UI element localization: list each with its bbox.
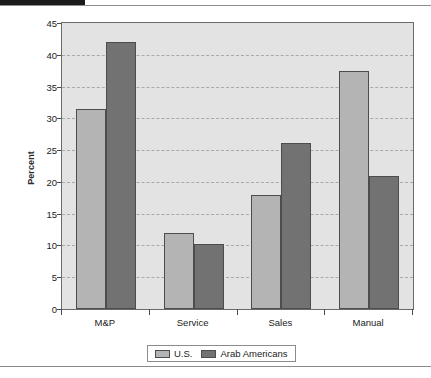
x-category-label: Sales [268, 317, 292, 328]
x-axis-category-labels: M&PServiceSalesManual [61, 317, 412, 333]
x-axis-tick-marks [61, 309, 414, 316]
y-axis-tick-marks [22, 22, 62, 309]
bar [164, 233, 194, 309]
legend-label: U.S. [174, 348, 192, 359]
bar [106, 42, 136, 309]
legend-swatch [155, 350, 170, 358]
x-tick-mark [61, 309, 62, 315]
legend-entry: Arab Americans [201, 348, 287, 359]
bar [251, 195, 281, 309]
x-tick-mark [149, 309, 150, 315]
bar [339, 71, 369, 309]
x-category-label: Service [177, 317, 209, 328]
bar [194, 244, 224, 309]
bar-chart-figure: Percent 051015202530354045 M&PServiceSal… [0, 6, 431, 366]
x-tick-mark [324, 309, 325, 315]
x-category-label: M&P [95, 317, 116, 328]
legend-entry: U.S. [155, 348, 192, 359]
bottom-divider-rule [0, 366, 431, 367]
legend-swatch [201, 350, 216, 358]
bar [76, 109, 106, 309]
x-category-label: Manual [353, 317, 384, 328]
bar [369, 176, 399, 309]
chart-legend: U.S.Arab Americans [147, 345, 296, 362]
x-tick-mark [237, 309, 238, 315]
x-tick-mark [412, 309, 413, 315]
bar [281, 143, 311, 310]
legend-label: Arab Americans [220, 348, 287, 359]
plot-area [61, 22, 414, 310]
